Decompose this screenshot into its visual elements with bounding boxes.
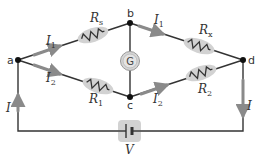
label-battery-v: V	[125, 143, 135, 157]
label-i1-bd: I1	[153, 13, 164, 29]
node-label-d: d	[248, 54, 255, 67]
resistor-rs	[76, 23, 111, 46]
galvanometer: G	[121, 52, 140, 71]
label-r1: R1	[88, 92, 103, 108]
battery	[118, 120, 141, 142]
label-i1-ab: I1	[45, 34, 56, 50]
wires	[18, 23, 243, 131]
galvanometer-label: G	[126, 56, 134, 67]
node-a	[15, 57, 21, 63]
node-d	[240, 57, 246, 63]
node-b	[127, 20, 133, 26]
label-i-left: I	[5, 101, 11, 115]
wheatstone-bridge-diagram: Rs Rx R1 R2 G	[0, 0, 263, 159]
node-label-c: c	[127, 99, 133, 112]
label-i-right: I	[246, 99, 252, 113]
label-rs: Rs	[89, 11, 103, 27]
label-rx: Rx	[198, 23, 213, 39]
label-i2-cd: I2	[152, 92, 163, 108]
node-label-b: b	[127, 7, 134, 20]
node-label-a: a	[7, 54, 14, 67]
label-r2: R2	[197, 82, 212, 98]
